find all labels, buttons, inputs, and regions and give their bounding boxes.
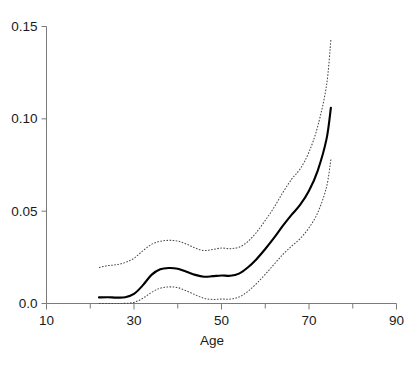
y-tick-label: 0.10: [11, 111, 37, 126]
y-axis-ticks: [42, 27, 47, 304]
x-tick-label: 50: [214, 313, 229, 328]
x-tick-label: 90: [389, 313, 404, 328]
chart-figure: 0.00.050.100.15 1030507090 Age: [0, 0, 419, 365]
x-tick-label: 70: [301, 313, 316, 328]
y-tick-label: 0.05: [11, 204, 37, 219]
data-series-group: [99, 39, 331, 303]
line-chart: 0.00.050.100.15 1030507090 Age: [0, 0, 419, 365]
y-tick-label: 0.15: [11, 19, 37, 34]
series-line-1: [99, 108, 331, 298]
x-tick-label: 30: [126, 313, 141, 328]
x-axis-tick-labels: 1030507090: [39, 313, 404, 328]
series-line-2: [99, 159, 331, 303]
axes: 0.00.050.100.15 1030507090: [11, 19, 404, 328]
y-tick-label: 0.0: [19, 296, 38, 311]
y-axis-tick-labels: 0.00.050.100.15: [11, 19, 37, 311]
series-line-0: [99, 39, 331, 267]
x-axis-ticks: [47, 304, 397, 310]
x-tick-label: 10: [39, 313, 54, 328]
x-axis-title: Age: [200, 333, 224, 348]
